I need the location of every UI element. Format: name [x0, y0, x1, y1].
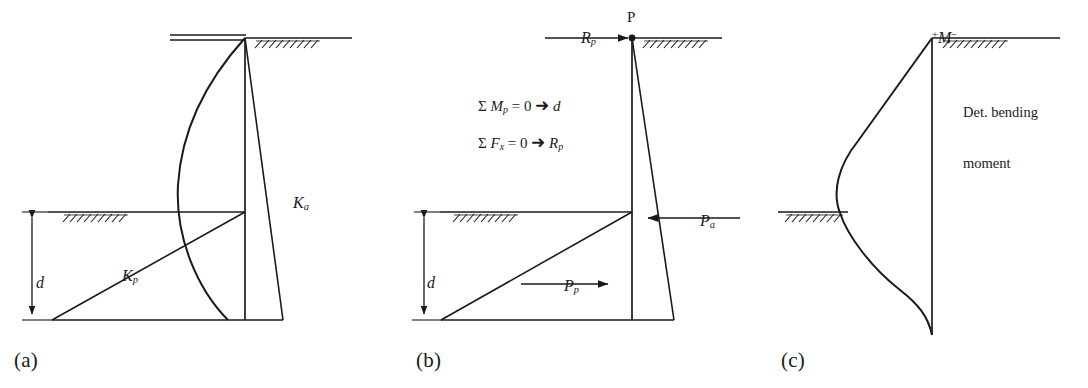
panel-a-pressure-curve [178, 38, 245, 320]
panel-c-caption: (c) [781, 348, 805, 373]
panel-a-anchor-rod [170, 35, 246, 40]
panel-a-dredge-line [48, 212, 245, 222]
panel-a-ground-line [245, 38, 352, 48]
panel-c-dredge-line [778, 212, 848, 222]
figure-root: Ka Kp d (a) Rp P Σ Mp = 0 ➜ d Σ Fx = 0 ➜… [0, 0, 1088, 388]
panel-b-pa-diagram [632, 38, 674, 320]
panel-b-pa-label: Pa [684, 194, 715, 248]
panel-c-note-line-1: Det. bending [963, 104, 1038, 121]
panel-c-note-line-2: moment [963, 155, 1038, 172]
panel-c-note: Det. bending moment [963, 70, 1038, 206]
panel-b-pp-label: Pp [548, 259, 579, 313]
panel-a-kp-diagram [52, 212, 245, 320]
panel-a-kp-label: Kp [106, 249, 138, 303]
panel-b-depth-label: d [411, 256, 435, 310]
panel-a-caption: (a) [14, 348, 38, 373]
panel-b-ground-line [632, 38, 722, 48]
panel-b-rp-label: Rp [565, 11, 596, 65]
panel-b-pp-diagram [441, 212, 632, 320]
panel-c-moment-label: +M− [916, 11, 957, 65]
panel-b-caption: (b) [416, 348, 441, 373]
panel-a-ka-label: Ka [277, 176, 309, 230]
panel-b-dredge-line [440, 212, 632, 222]
panel-c-moment-curve [837, 38, 932, 335]
panel-b-equation-force: Σ Fx = 0 ➜ Rp [463, 115, 563, 170]
panel-a-depth-label: d [20, 256, 44, 310]
panel-b-anchor-point-label: P [627, 9, 635, 26]
